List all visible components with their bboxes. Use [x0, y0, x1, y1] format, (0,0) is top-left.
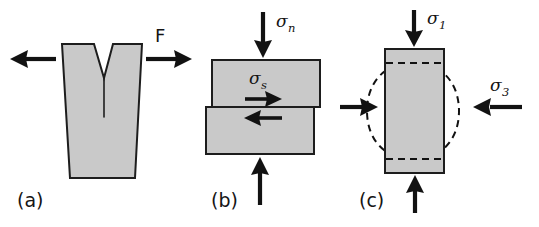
figure-svg: F (a) σ n σ s — [0, 0, 539, 227]
panel-label-a: (a) — [17, 189, 43, 211]
confining-stress-arrow-left — [340, 98, 378, 116]
svg-text:σ: σ — [427, 8, 439, 28]
triaxial-specimen-body — [385, 49, 444, 173]
axial-stress-label: σ 1 — [427, 8, 446, 32]
svg-text:n: n — [288, 21, 295, 35]
panel-a: F (a) — [10, 25, 192, 211]
svg-text:1: 1 — [439, 18, 446, 32]
tension-arrow-left — [10, 50, 56, 68]
svg-text:σ: σ — [249, 68, 261, 88]
panel-c: σ 1 σ 3 (c) — [340, 8, 522, 213]
svg-text:σ: σ — [276, 11, 288, 31]
notched-specimen-body — [62, 44, 142, 178]
force-label: F — [155, 25, 165, 46]
panel-label-c: (c) — [359, 189, 384, 211]
normal-stress-arrow-top — [254, 12, 272, 58]
normal-stress-arrow-bottom — [251, 157, 269, 205]
panel-label-b: (b) — [211, 189, 238, 211]
svg-text:σ: σ — [490, 75, 502, 95]
svg-text:3: 3 — [502, 85, 509, 99]
confining-stress-arrow-right — [473, 98, 522, 116]
axial-stress-arrow-top — [405, 10, 423, 47]
shear-block-lower — [206, 107, 314, 154]
tension-arrow-right — [146, 50, 192, 68]
axial-stress-arrow-bottom — [406, 175, 424, 213]
confining-stress-label: σ 3 — [490, 75, 509, 99]
svg-text:s: s — [261, 78, 267, 92]
figure-container: F (a) σ n σ s — [0, 0, 539, 227]
panel-b: σ n σ s (b) — [206, 11, 320, 211]
normal-stress-label: σ n — [276, 11, 295, 35]
